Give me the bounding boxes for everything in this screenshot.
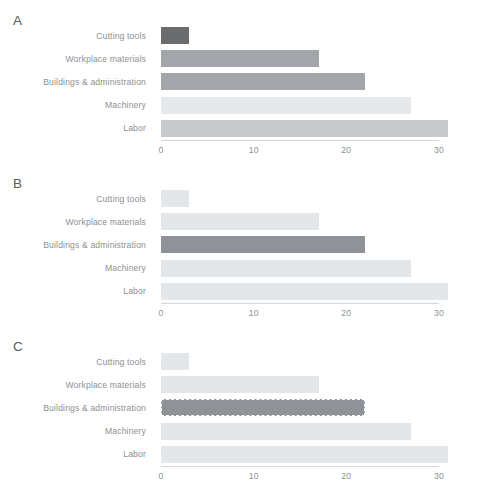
category-label: Machinery	[0, 264, 146, 273]
bar-row: Machinery	[0, 94, 479, 117]
bar-cutting-tools	[161, 190, 189, 207]
x-tick-label: 20	[341, 472, 351, 481]
category-label: Buildings & administration	[0, 241, 146, 250]
x-tick-label: 0	[159, 146, 164, 155]
bar-machinery	[161, 97, 411, 114]
category-label: Cutting tools	[0, 194, 146, 203]
bar-buildings-administration-highlighted	[161, 399, 365, 416]
category-label: Labor	[0, 450, 146, 459]
x-axis-line	[161, 303, 439, 304]
category-label: Labor	[0, 287, 146, 296]
x-tick-label: 0	[159, 309, 164, 318]
panel-b-x-axis: 0 10 20 30	[0, 303, 479, 323]
bar-row: Buildings & administration	[0, 396, 479, 419]
bar-row: Buildings & administration	[0, 233, 479, 256]
bar-workplace-materials	[161, 213, 319, 230]
category-label: Labor	[0, 124, 146, 133]
bar-cutting-tools	[161, 27, 189, 44]
panel-b-plot-area: Cutting tools Workplace materials Buildi…	[0, 187, 479, 303]
bar-row: Cutting tools	[0, 187, 479, 210]
bar-row: Cutting tools	[0, 24, 479, 47]
category-label: Workplace materials	[0, 217, 146, 226]
category-label: Workplace materials	[0, 54, 146, 63]
bar-row: Workplace materials	[0, 373, 479, 396]
category-label: Cutting tools	[0, 357, 146, 366]
x-tick-label: 0	[159, 472, 164, 481]
panel-a: A Cutting tools Workplace materials Buil…	[0, 0, 479, 163]
category-label: Machinery	[0, 101, 146, 110]
bar-labor	[161, 120, 448, 137]
bar-cutting-tools	[161, 353, 189, 370]
x-tick-label: 30	[434, 309, 444, 318]
panel-c-plot-area: Cutting tools Workplace materials Buildi…	[0, 350, 479, 466]
x-tick-label: 20	[341, 146, 351, 155]
panel-a-plot-area: Cutting tools Workplace materials Buildi…	[0, 24, 479, 140]
bar-machinery	[161, 423, 411, 440]
x-tick-label: 10	[249, 146, 259, 155]
bar-row: Cutting tools	[0, 350, 479, 373]
bar-row: Buildings & administration	[0, 70, 479, 93]
x-tick-label: 30	[434, 472, 444, 481]
figure-three-panel-bar-charts: A Cutting tools Workplace materials Buil…	[0, 0, 479, 490]
bar-row: Workplace materials	[0, 47, 479, 70]
x-tick-label: 30	[434, 146, 444, 155]
bar-machinery	[161, 260, 411, 277]
x-tick-label: 10	[249, 309, 259, 318]
category-label: Buildings & administration	[0, 404, 146, 413]
bar-buildings-administration	[161, 73, 365, 90]
category-label: Workplace materials	[0, 380, 146, 389]
bar-labor	[161, 446, 448, 463]
panel-c-x-axis: 0 10 20 30	[0, 466, 479, 486]
bar-labor	[161, 283, 448, 300]
bar-row: Labor	[0, 280, 479, 303]
category-label: Buildings & administration	[0, 78, 146, 87]
panel-b: B Cutting tools Workplace materials Buil…	[0, 163, 479, 326]
panel-a-x-axis: 0 10 20 30	[0, 140, 479, 160]
x-tick-label: 10	[249, 472, 259, 481]
category-label: Machinery	[0, 427, 146, 436]
panel-c: C Cutting tools Workplace materials Buil…	[0, 326, 479, 489]
x-axis-line	[161, 140, 439, 141]
bar-row: Workplace materials	[0, 210, 479, 233]
x-tick-label: 20	[341, 309, 351, 318]
bar-row: Labor	[0, 117, 479, 140]
bar-workplace-materials	[161, 376, 319, 393]
x-axis-line	[161, 466, 439, 467]
bar-row: Machinery	[0, 257, 479, 280]
category-label: Cutting tools	[0, 31, 146, 40]
bar-row: Machinery	[0, 420, 479, 443]
bar-row: Labor	[0, 443, 479, 466]
bar-workplace-materials	[161, 50, 319, 67]
bar-buildings-administration	[161, 236, 365, 253]
